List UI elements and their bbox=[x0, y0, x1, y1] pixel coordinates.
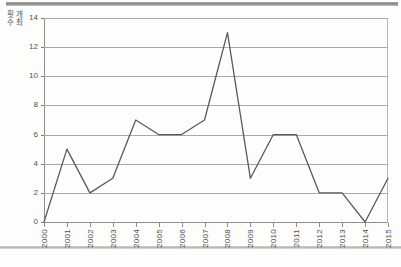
chart-figure: 개최 횟수 02468101214 2000200120022003200420… bbox=[0, 0, 401, 267]
line-series-open-count bbox=[44, 33, 388, 222]
data-series-layer bbox=[0, 0, 401, 267]
